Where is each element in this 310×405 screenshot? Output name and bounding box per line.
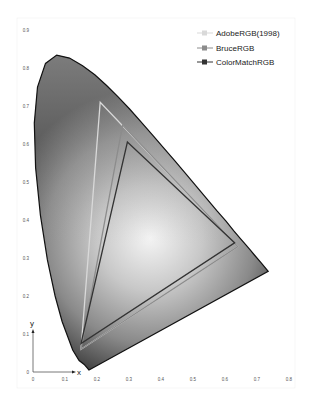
y-tick-label: 0.4: [23, 218, 30, 223]
x-tick-label: 0.1: [62, 377, 69, 382]
y-tick-label: 0.7: [23, 104, 30, 109]
x-tick-label: 0.7: [254, 377, 261, 382]
y-tick-label: 0.5: [23, 180, 30, 185]
legend-item-brucergb: BruceRGB: [197, 44, 254, 53]
y-tick-label: 0.3: [23, 256, 30, 261]
legend-label: BruceRGB: [216, 44, 254, 53]
x-tick-label: 0.2: [94, 377, 101, 382]
x-tick-labels: 00.10.20.30.40.50.60.70.8: [32, 377, 293, 382]
x-tick-label: 0.8: [286, 377, 293, 382]
x-tick-label: 0.5: [190, 377, 197, 382]
y-tick-label: 0.2: [23, 294, 30, 299]
y-tick-labels: 00.10.20.30.40.50.60.70.80.9: [23, 28, 30, 375]
chromaticity-chart: 00.10.20.30.40.50.60.70.8 00.10.20.30.40…: [0, 0, 310, 405]
y-tick-label: 0.1: [23, 332, 30, 337]
legend: AdobeRGB(1998) BruceRGB ColorMatchRGB: [197, 29, 280, 67]
y-tick-label: 0.8: [23, 66, 30, 71]
x-tick-label: 0: [32, 377, 35, 382]
x-tick-label: 0.4: [158, 377, 165, 382]
y-tick-label: 0: [26, 370, 29, 375]
legend-item-colormatchrgb: ColorMatchRGB: [197, 58, 274, 67]
spectral-locus: [34, 55, 268, 370]
legend-label: AdobeRGB(1998): [216, 29, 280, 38]
x-axis-label: x: [77, 368, 81, 377]
legend-label: ColorMatchRGB: [216, 58, 274, 67]
x-tick-label: 0.3: [126, 377, 133, 382]
y-axis-label: y: [30, 319, 34, 328]
y-tick-label: 0.6: [23, 142, 30, 147]
x-tick-label: 0.6: [222, 377, 229, 382]
legend-item-adobergb: AdobeRGB(1998): [197, 29, 280, 38]
y-tick-label: 0.9: [23, 28, 30, 33]
